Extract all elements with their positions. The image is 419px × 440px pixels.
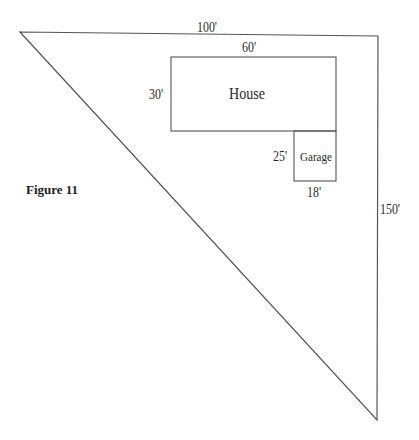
figure-canvas: 100' 150' 60' 30' House Garage 25' 18' F… [0, 0, 419, 440]
lot-triangle [20, 32, 378, 420]
garage-height-label: 25' [273, 150, 287, 164]
house-width-label: 60' [242, 41, 256, 55]
house-height-label: 30' [149, 88, 163, 102]
lot-right-dimension-label: 150' [380, 203, 400, 217]
garage-label: Garage [300, 150, 332, 163]
figure-caption: Figure 11 [26, 183, 78, 196]
lot-diagram [0, 0, 419, 440]
lot-top-dimension-label: 100' [197, 21, 217, 35]
house-label: House [229, 86, 265, 102]
garage-width-label: 18' [307, 186, 321, 200]
